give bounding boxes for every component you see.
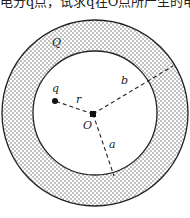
label-a: a [109,138,116,151]
label-b: b [121,74,128,87]
label-O: O [83,119,92,132]
spherical-shell-diagram: Q q r b O a [0,0,190,218]
label-Q: Q [52,36,61,49]
point-charge-q [52,98,58,104]
label-q: q [52,82,59,95]
label-r: r [76,93,82,106]
shell-charge-region [0,0,190,218]
center-point-o [90,111,96,117]
